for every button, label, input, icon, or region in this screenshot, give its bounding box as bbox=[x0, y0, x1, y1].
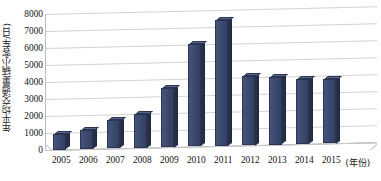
x-tick-label: 2007 bbox=[106, 155, 125, 165]
bar bbox=[161, 88, 175, 148]
gridline-6000 bbox=[45, 40, 377, 49]
bar-side-face bbox=[201, 41, 205, 146]
bar-side-face bbox=[147, 111, 151, 148]
bar bbox=[296, 79, 310, 144]
bar-top-face bbox=[243, 73, 260, 76]
x-tick-label: 2013 bbox=[268, 155, 287, 165]
bar-front-face bbox=[242, 76, 256, 146]
bar-front-face bbox=[296, 79, 310, 144]
bar-front-face bbox=[215, 20, 229, 146]
y-tick-label: 2000 bbox=[24, 111, 43, 121]
x-tick-label: 2009 bbox=[160, 155, 179, 165]
gridline-5000 bbox=[45, 57, 377, 66]
x-tick-label: 2005 bbox=[52, 155, 71, 165]
bar-front-face bbox=[323, 79, 337, 144]
bar-side-face bbox=[66, 131, 70, 149]
y-tick-label: 0 bbox=[38, 145, 43, 155]
x-tick-label: 2012 bbox=[241, 155, 260, 165]
y-axis-title-text: 年平均交通量(辆小客车/日) bbox=[2, 23, 12, 132]
x-tick-label: 2008 bbox=[133, 155, 152, 165]
bar-side-face bbox=[309, 76, 313, 144]
x-axis-title: (年份) bbox=[345, 155, 370, 169]
bar-chart-figure: 年平均交通量(辆小客车/日) 0100020003000400050006000… bbox=[0, 0, 381, 181]
y-axis-line bbox=[45, 14, 46, 150]
x-tick-label: 2006 bbox=[79, 155, 98, 165]
bar-side-face bbox=[255, 72, 259, 145]
y-tick-label: 7000 bbox=[24, 26, 43, 36]
y-axis-title: 年平均交通量(辆小客车/日) bbox=[0, 0, 14, 155]
x-axis-tick-labels: (年份) 20052006200720082009201020112012201… bbox=[45, 155, 381, 181]
bar bbox=[80, 130, 94, 149]
bar-top-face bbox=[162, 85, 179, 88]
bar bbox=[269, 77, 283, 144]
bar bbox=[215, 20, 229, 146]
y-tick-label: 3000 bbox=[24, 94, 43, 104]
bar-side-face bbox=[120, 117, 124, 148]
y-tick-label: 8000 bbox=[24, 9, 43, 19]
x-tick-label: 2015 bbox=[322, 155, 341, 165]
bar bbox=[53, 134, 67, 149]
bar-front-face bbox=[134, 114, 148, 148]
bar-front-face bbox=[161, 88, 175, 148]
y-tick-label: 1000 bbox=[24, 128, 43, 138]
bar-front-face bbox=[53, 134, 67, 149]
gridline-8000 bbox=[45, 6, 377, 15]
bar bbox=[107, 120, 121, 148]
bar-top-face bbox=[135, 111, 152, 114]
bar-front-face bbox=[188, 44, 202, 146]
bar bbox=[242, 76, 256, 146]
plot-area bbox=[45, 8, 377, 154]
bar-front-face bbox=[80, 130, 94, 149]
bar-front-face bbox=[107, 120, 121, 148]
x-tick-label: 2014 bbox=[295, 155, 314, 165]
bar-side-face bbox=[336, 76, 340, 144]
bar-front-face bbox=[269, 77, 283, 144]
y-axis-tick-labels: 010002000300040005000600070008000 bbox=[14, 0, 44, 181]
bar bbox=[323, 79, 337, 144]
bar-top-face bbox=[324, 76, 341, 79]
floor-right-edge bbox=[370, 144, 378, 150]
bar-side-face bbox=[174, 84, 178, 147]
y-tick-label: 4000 bbox=[24, 77, 43, 87]
x-tick-label: 2010 bbox=[187, 155, 206, 165]
bar bbox=[188, 44, 202, 146]
y-tick-label: 5000 bbox=[24, 60, 43, 70]
bar bbox=[134, 114, 148, 148]
x-tick-label: 2011 bbox=[214, 155, 232, 165]
bar-side-face bbox=[93, 127, 97, 149]
y-tick-label: 6000 bbox=[24, 43, 43, 53]
bar-side-face bbox=[228, 17, 232, 146]
gridline-7000 bbox=[45, 23, 377, 32]
bar-side-face bbox=[282, 74, 286, 144]
